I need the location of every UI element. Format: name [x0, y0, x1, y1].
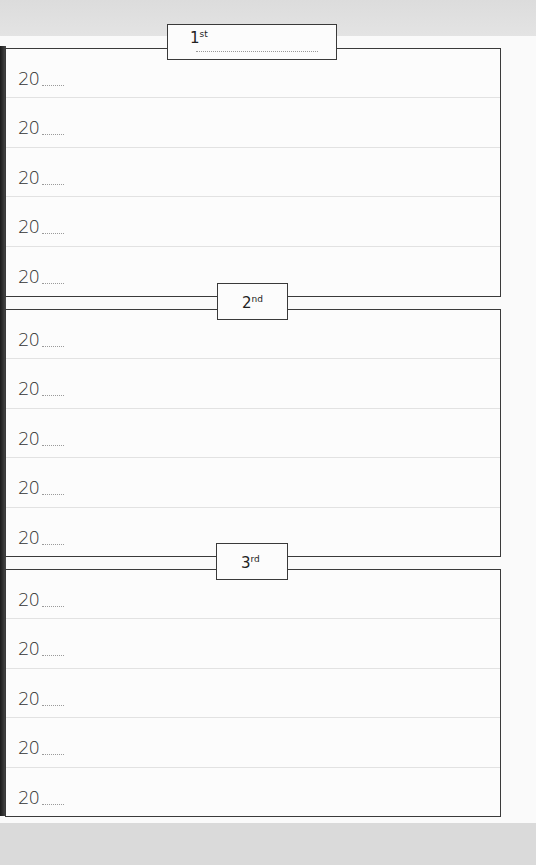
background-bottom: [0, 823, 536, 865]
section-1: 20 20 20 20 20: [5, 48, 501, 297]
year-blank[interactable]: [42, 184, 64, 185]
year-prefix: 20: [18, 589, 39, 610]
year-blank[interactable]: [42, 395, 64, 396]
year-prefix: 20: [18, 428, 39, 449]
entry-row[interactable]: 20: [6, 458, 500, 507]
year-blank[interactable]: [42, 606, 64, 607]
year-prefix: 20: [18, 688, 39, 709]
year-prefix: 20: [18, 638, 39, 659]
year-blank[interactable]: [42, 85, 64, 86]
entry-row[interactable]: 20: [6, 359, 500, 408]
year-blank[interactable]: [42, 494, 64, 495]
year-prefix: 20: [18, 216, 39, 237]
entry-row[interactable]: 20: [6, 768, 500, 817]
year-blank[interactable]: [42, 655, 64, 656]
entry-row[interactable]: 20: [6, 98, 500, 147]
year-blank[interactable]: [42, 445, 64, 446]
year-blank[interactable]: [42, 233, 64, 234]
entry-row[interactable]: 20: [6, 409, 500, 458]
section-3: 20 20 20 20 20: [5, 569, 501, 817]
year-prefix: 20: [18, 167, 39, 188]
year-blank[interactable]: [42, 134, 64, 135]
year-blank[interactable]: [42, 346, 64, 347]
year-prefix: 20: [18, 527, 39, 548]
year-prefix: 20: [18, 68, 39, 89]
year-blank[interactable]: [42, 804, 64, 805]
entry-row[interactable]: 20: [6, 669, 500, 718]
year-prefix: 20: [18, 329, 39, 350]
entry-row[interactable]: 20: [6, 197, 500, 246]
entry-row[interactable]: 20: [6, 148, 500, 197]
year-prefix: 20: [18, 477, 39, 498]
year-blank[interactable]: [42, 754, 64, 755]
section-3-tab: 3rd: [216, 543, 288, 580]
year-prefix: 20: [18, 787, 39, 808]
year-prefix: 20: [18, 737, 39, 758]
section-3-label: 3rd: [241, 554, 260, 572]
section-1-tab: 1st: [167, 24, 337, 60]
year-prefix: 20: [18, 378, 39, 399]
section-1-name-line[interactable]: [196, 51, 318, 52]
year-prefix: 20: [18, 266, 39, 287]
year-blank[interactable]: [42, 283, 64, 284]
year-blank[interactable]: [42, 705, 64, 706]
section-1-label: 1st: [190, 29, 208, 47]
year-blank[interactable]: [42, 544, 64, 545]
entry-row[interactable]: 20: [6, 619, 500, 668]
section-2-tab: 2nd: [217, 283, 288, 320]
year-prefix: 20: [18, 117, 39, 138]
section-2: 20 20 20 20 20: [5, 309, 501, 557]
entry-row[interactable]: 20: [6, 718, 500, 767]
section-2-label: 2nd: [242, 294, 263, 312]
